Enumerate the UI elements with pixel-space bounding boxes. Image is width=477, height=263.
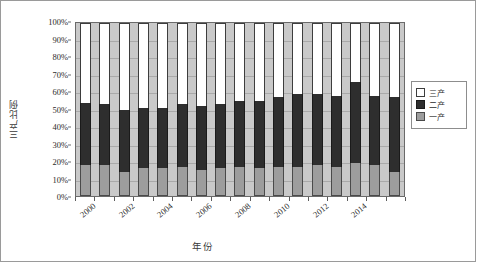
bar-segment-primary — [292, 167, 303, 196]
y-axis-tick-mark — [68, 179, 71, 180]
x-axis-title: 年份 — [1, 239, 405, 253]
bar-segment-secondary — [350, 82, 361, 163]
chart-frame: 三产比例 0%10%20%30%40%50%60%70%80%90%100% 2… — [0, 0, 476, 262]
bar-series-container — [76, 23, 404, 196]
bar-segment-tertiary — [138, 23, 149, 108]
y-axis-tick-label: 40% — [52, 122, 68, 132]
bar-segment-primary — [177, 167, 188, 196]
bar-column — [312, 23, 323, 196]
bar-column — [80, 23, 91, 196]
y-axis-tick-mark — [68, 127, 71, 128]
y-axis-tick-mark — [68, 74, 71, 75]
x-axis-tick-label: 2012 — [311, 201, 330, 220]
bar-segment-secondary — [234, 101, 245, 167]
legend-swatch-icon — [416, 88, 425, 97]
y-axis-tick-label: 0% — [57, 192, 68, 202]
bar-segment-primary — [80, 165, 91, 196]
x-axis-tick-label: 2008 — [233, 201, 252, 220]
legend-item[interactable]: 三产 — [416, 88, 463, 97]
bar-segment-secondary — [292, 94, 303, 167]
x-axis-tick-label: 2010 — [272, 201, 291, 220]
bar-column — [138, 23, 149, 196]
bar-segment-tertiary — [99, 23, 110, 104]
bar-segment-tertiary — [215, 23, 226, 104]
x-axis-tick-label: 2014 — [349, 201, 368, 220]
bar-segment-secondary — [196, 106, 207, 170]
bar-segment-tertiary — [196, 23, 207, 106]
bar-segment-secondary — [177, 104, 188, 166]
bar-segment-primary — [196, 170, 207, 196]
bar-segment-tertiary — [350, 23, 361, 82]
legend-swatch-icon — [416, 112, 425, 121]
bar-segment-tertiary — [389, 23, 400, 97]
y-axis-tick-mark — [68, 144, 71, 145]
bar-segment-primary — [389, 172, 400, 196]
bar-segment-tertiary — [331, 23, 342, 96]
bar-segment-secondary — [138, 108, 149, 169]
bar-segment-tertiary — [254, 23, 265, 101]
y-axis-tick-label: 50% — [52, 105, 68, 115]
bar-column — [119, 23, 130, 196]
bar-segment-primary — [215, 168, 226, 196]
bar-segment-primary — [273, 167, 284, 196]
x-axis-tick-mark — [405, 197, 406, 201]
x-axis-tick-label: 2000 — [78, 201, 97, 220]
bar-segment-secondary — [389, 97, 400, 171]
chart-legend: 三产二产一产 — [411, 81, 467, 129]
y-axis-tick-mark — [68, 162, 71, 163]
bar-column — [177, 23, 188, 196]
legend-item[interactable]: 一产 — [416, 112, 463, 121]
bar-column — [273, 23, 284, 196]
bar-segment-primary — [99, 165, 110, 196]
x-axis-tick-labels: 20002002200420062008201020122014 — [75, 201, 405, 235]
legend-item[interactable]: 二产 — [416, 100, 463, 109]
bar-segment-primary — [312, 165, 323, 196]
bar-column — [350, 23, 361, 196]
bar-segment-secondary — [312, 94, 323, 165]
bar-column — [234, 23, 245, 196]
bar-segment-primary — [119, 172, 130, 196]
bar-segment-tertiary — [292, 23, 303, 94]
bar-segment-tertiary — [312, 23, 323, 94]
x-axis-tick-label: 2004 — [155, 201, 174, 220]
bar-column — [99, 23, 110, 196]
bar-segment-tertiary — [119, 23, 130, 110]
legend-item-label: 一产 — [429, 111, 445, 122]
y-axis-tick-mark — [68, 22, 71, 23]
y-axis-tick-label: 90% — [52, 35, 68, 45]
y-axis-tick-labels: 0%10%20%30%40%50%60%70%80%90%100% — [27, 22, 71, 197]
y-axis-tick-mark — [68, 109, 71, 110]
bar-column — [196, 23, 207, 196]
bar-segment-secondary — [99, 104, 110, 165]
bar-segment-secondary — [80, 103, 91, 165]
plot-area — [75, 22, 405, 197]
bar-segment-secondary — [331, 96, 342, 167]
y-axis-tick-label: 70% — [52, 70, 68, 80]
bar-segment-primary — [254, 168, 265, 196]
bar-column — [331, 23, 342, 196]
y-axis-tick-label: 30% — [52, 140, 68, 150]
legend-item-label: 二产 — [429, 99, 445, 110]
legend-item-label: 三产 — [429, 87, 445, 98]
bar-segment-secondary — [215, 104, 226, 168]
bar-segment-tertiary — [234, 23, 245, 101]
bar-segment-primary — [331, 167, 342, 196]
y-axis-tick-mark — [68, 197, 71, 198]
bar-segment-primary — [234, 167, 245, 196]
bar-column — [254, 23, 265, 196]
bar-segment-tertiary — [80, 23, 91, 103]
bar-segment-secondary — [273, 97, 284, 166]
bar-segment-primary — [157, 168, 168, 196]
y-axis-tick-label: 100% — [48, 17, 68, 27]
bar-column — [369, 23, 380, 196]
x-axis-tick-label: 2006 — [194, 201, 213, 220]
bar-segment-tertiary — [369, 23, 380, 96]
y-axis-tick-mark — [68, 57, 71, 58]
legend-swatch-icon — [416, 100, 425, 109]
bar-segment-primary — [350, 163, 361, 196]
bar-segment-tertiary — [157, 23, 168, 108]
bar-segment-secondary — [254, 101, 265, 168]
bar-segment-tertiary — [273, 23, 284, 97]
y-axis-tick-mark — [68, 39, 71, 40]
y-axis-tick-label: 20% — [52, 157, 68, 167]
